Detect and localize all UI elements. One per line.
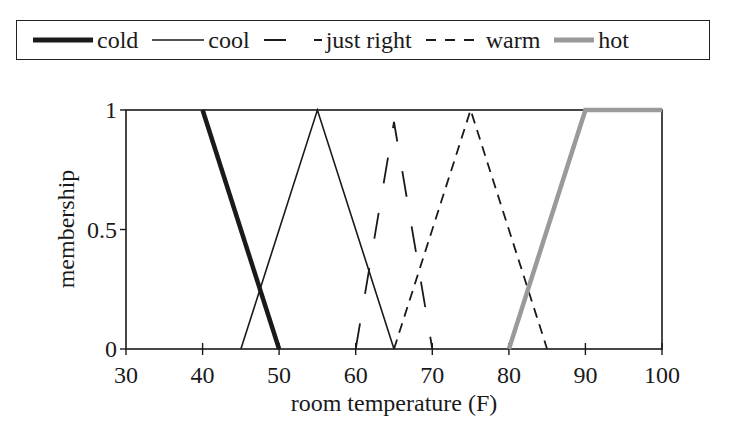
x-tick-50: 50 bbox=[267, 362, 291, 388]
series-cold-line bbox=[203, 110, 280, 349]
plot-frame bbox=[126, 110, 662, 349]
x-tick-60: 60 bbox=[344, 362, 368, 388]
x-axis-title: room temperature (F) bbox=[291, 390, 498, 416]
x-tick-80: 80 bbox=[497, 362, 521, 388]
plot-area: 0 0.5 1 membership 30 40 50 60 70 80 90 … bbox=[0, 0, 730, 440]
x-tick-30: 30 bbox=[114, 362, 138, 388]
x-tick-100: 100 bbox=[644, 362, 680, 388]
y-axis: 0 0.5 1 membership bbox=[53, 97, 126, 362]
series-just-right-line bbox=[356, 122, 433, 349]
series-hot-line bbox=[509, 110, 662, 349]
series-layer bbox=[203, 110, 662, 349]
y-tick-0.5: 0.5 bbox=[87, 217, 117, 243]
series-warm-line bbox=[394, 110, 547, 349]
y-axis-title: membership bbox=[53, 170, 79, 289]
series-cool-line bbox=[241, 110, 394, 349]
y-tick-1: 1 bbox=[105, 97, 117, 123]
y-tick-0: 0 bbox=[105, 336, 117, 362]
x-tick-70: 70 bbox=[420, 362, 444, 388]
x-tick-90: 90 bbox=[573, 362, 597, 388]
x-tick-40: 40 bbox=[191, 362, 215, 388]
x-axis: 30 40 50 60 70 80 90 100 room temperatur… bbox=[114, 343, 680, 416]
